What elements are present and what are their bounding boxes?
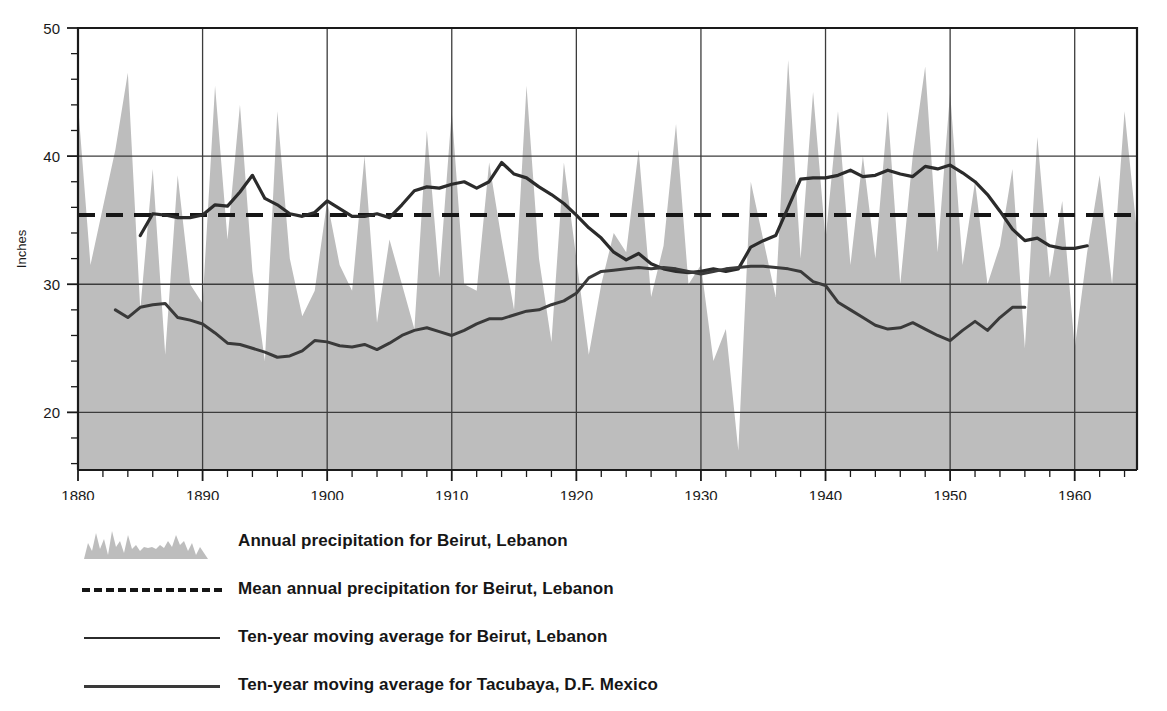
legend-item-mean-precipitation: Mean annual precipitation for Beirut, Le… (78, 567, 614, 611)
chart-legend: Annual precipitation for Beirut, Lebanon… (0, 505, 1167, 711)
x-axis-tick-label: 1960 (1058, 487, 1091, 500)
legend-item-beirut-moving-average: Ten-year moving average for Beirut, Leba… (78, 615, 608, 659)
x-axis-tick-label: 1950 (933, 487, 966, 500)
precipitation-chart-svg: 2030405018801890190019101920193019401950… (0, 0, 1167, 500)
y-axis-title: Inches (14, 229, 29, 268)
dashed-line-icon (82, 588, 222, 592)
x-axis-tick-label: 1880 (61, 487, 94, 500)
x-axis-tick-label: 1890 (186, 487, 219, 500)
x-axis-tick-label: 1940 (809, 487, 842, 500)
legend-item-annual-precipitation: Annual precipitation for Beirut, Lebanon (78, 519, 568, 563)
y-axis-tick-label: 20 (43, 404, 60, 421)
x-axis-tick-label: 1930 (684, 487, 717, 500)
legend-label: Ten-year moving average for Beirut, Leba… (238, 627, 608, 647)
legend-label: Ten-year moving average for Tacubaya, D.… (238, 675, 658, 695)
legend-label: Mean annual precipitation for Beirut, Le… (238, 579, 614, 599)
legend-item-tacubaya-moving-average: Ten-year moving average for Tacubaya, D.… (78, 663, 658, 707)
legend-label: Annual precipitation for Beirut, Lebanon (238, 531, 568, 551)
y-axis-tick-label: 30 (43, 276, 60, 293)
x-axis-tick-label: 1920 (560, 487, 593, 500)
chart-page: 2030405018801890190019101920193019401950… (0, 0, 1167, 711)
plot-area: 2030405018801890190019101920193019401950… (0, 0, 1167, 500)
annual-precipitation-area (78, 60, 1137, 470)
y-axis-tick-label: 50 (43, 20, 60, 37)
legend-swatch-solid-thick (78, 617, 226, 657)
y-axis-tick-label: 40 (43, 148, 60, 165)
legend-swatch-solid-med (78, 665, 226, 705)
x-axis-tick-label: 1900 (310, 487, 343, 500)
solid-line-icon (84, 637, 220, 639)
legend-swatch-area (78, 521, 226, 561)
solid-line-icon (84, 685, 220, 688)
area-silhouette-icon (78, 521, 226, 561)
x-axis-tick-label: 1910 (435, 487, 468, 500)
legend-swatch-dashed (78, 569, 226, 609)
